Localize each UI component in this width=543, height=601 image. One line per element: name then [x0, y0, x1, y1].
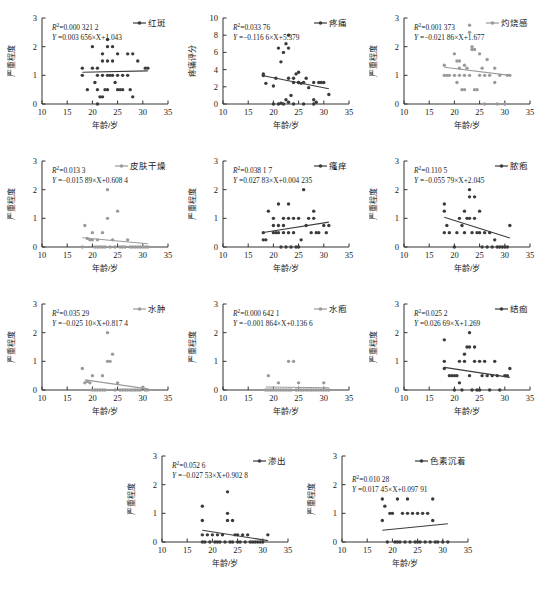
svg-text:2: 2 — [33, 328, 37, 338]
equation-annotation: R2=0.001 373Y =−0.021 86×X+1.677 — [413, 22, 485, 42]
legend: 色素沉着 — [415, 456, 466, 466]
svg-text:15: 15 — [425, 250, 434, 260]
svg-text:20: 20 — [269, 393, 278, 403]
svg-text:25: 25 — [294, 393, 303, 403]
x-axis-title: 年龄/岁 — [92, 120, 118, 130]
equation-label: Y =−0.021 86×X+1.677 — [414, 33, 485, 42]
y-axis-ticks: 0123 — [214, 299, 227, 395]
legend-label: 色素沉着 — [430, 456, 466, 466]
svg-text:35: 35 — [464, 545, 473, 555]
svg-text:0: 0 — [153, 537, 157, 547]
svg-text:0: 0 — [214, 99, 218, 109]
scatter-panel-p4: 1015202530350123年龄/岁严重程度皮肤干燥R2=0.013 3Y … — [0, 143, 181, 286]
legend: 渗出 — [253, 456, 286, 466]
svg-text:0: 0 — [33, 385, 37, 395]
svg-text:3: 3 — [153, 451, 157, 461]
data-points — [81, 188, 150, 249]
svg-text:3: 3 — [395, 299, 399, 309]
equation-label: Y =−0.055 79×X+2.045 — [414, 176, 485, 185]
y-axis-title: 疼痛评分 — [187, 45, 197, 77]
legend: 水疱 — [314, 304, 347, 314]
svg-text:20: 20 — [88, 393, 97, 403]
legend-label: 水疱 — [329, 304, 347, 314]
r-squared-label: R2=0.038 1 7 — [232, 165, 272, 175]
svg-text:15: 15 — [244, 393, 253, 403]
svg-text:2: 2 — [153, 480, 157, 490]
svg-text:35: 35 — [345, 250, 354, 260]
axes — [342, 456, 468, 542]
equation-label: Y =−0.027 53×X+0.902 8 — [172, 471, 248, 480]
y-axis-ticks: 0123 — [153, 451, 166, 547]
svg-text:0: 0 — [214, 385, 218, 395]
x-axis-title: 年龄/岁 — [454, 120, 480, 130]
svg-text:15: 15 — [425, 393, 434, 403]
scatter-panel-p10: 1015202530350123年龄/岁严重程度渗出R2=0.052 6Y =−… — [120, 438, 301, 581]
equation-annotation: R2=0.035 29Y =−0.025 10×X+0.817 4 — [51, 308, 128, 328]
regression-line — [263, 222, 329, 232]
svg-text:6: 6 — [214, 47, 218, 57]
data-points — [262, 188, 331, 249]
x-axis-ticks: 101520253035 — [38, 101, 173, 118]
equation-annotation: R2=0.052 6Y =−0.027 53×X+0.902 8 — [171, 460, 248, 480]
svg-text:35: 35 — [164, 393, 173, 403]
svg-text:2: 2 — [214, 185, 218, 195]
svg-text:20: 20 — [88, 107, 97, 117]
scatter-panel-p11: 1015202530350123年龄/岁严重程度色素沉着R2=0.010 28Y… — [300, 438, 481, 581]
data-points — [381, 497, 450, 543]
x-axis-ticks: 101520253035 — [400, 244, 535, 261]
legend-label: 瘙痒 — [329, 161, 347, 171]
svg-text:10: 10 — [38, 250, 47, 260]
regression-line — [382, 524, 448, 531]
svg-text:15: 15 — [244, 250, 253, 260]
svg-text:10: 10 — [400, 393, 409, 403]
svg-text:2: 2 — [333, 480, 337, 490]
svg-text:10: 10 — [400, 107, 409, 117]
svg-text:1: 1 — [395, 356, 399, 366]
svg-text:25: 25 — [113, 107, 122, 117]
svg-text:10: 10 — [219, 250, 228, 260]
data-points — [81, 331, 150, 392]
legend: 脓疱 — [495, 161, 528, 171]
x-axis-title: 年龄/岁 — [392, 558, 418, 568]
svg-text:3: 3 — [33, 299, 37, 309]
x-axis-ticks: 101520253035 — [400, 101, 535, 118]
y-axis-title: 严重程度 — [368, 45, 378, 77]
equation-annotation: R2=0.033 76Y =−0.116 6×X+5.379 — [232, 22, 300, 42]
figure-root: 1015202530350123年龄/岁严重程度红斑R2=0.000 321 2… — [0, 0, 543, 601]
svg-text:30: 30 — [501, 107, 510, 117]
y-axis-title: 严重程度 — [187, 331, 197, 363]
svg-text:25: 25 — [113, 393, 122, 403]
equation-annotation: R2=0.038 1 7Y =0.027 83×X+0.004 235 — [232, 165, 313, 185]
svg-text:10: 10 — [158, 545, 167, 555]
legend: 疼痛 — [314, 18, 347, 28]
svg-text:20: 20 — [450, 393, 459, 403]
svg-text:35: 35 — [345, 393, 354, 403]
y-axis-ticks: 0123 — [333, 451, 346, 547]
legend-label: 灼烧感 — [501, 18, 528, 28]
y-axis-title: 严重程度 — [368, 331, 378, 363]
legend: 皮肤干燥 — [115, 161, 166, 171]
svg-text:1: 1 — [214, 356, 218, 366]
svg-text:0: 0 — [395, 242, 399, 252]
svg-text:0: 0 — [395, 99, 399, 109]
y-axis-title: 严重程度 — [6, 188, 16, 220]
svg-text:10: 10 — [219, 107, 228, 117]
svg-text:3: 3 — [333, 451, 337, 461]
svg-text:15: 15 — [63, 107, 72, 117]
svg-text:20: 20 — [450, 107, 459, 117]
y-axis-ticks: 0246810 — [210, 13, 227, 109]
svg-text:15: 15 — [183, 545, 192, 555]
svg-text:1: 1 — [33, 70, 37, 80]
svg-text:15: 15 — [244, 107, 253, 117]
svg-text:1: 1 — [214, 213, 218, 223]
svg-text:2: 2 — [214, 82, 218, 92]
data-points — [443, 188, 512, 249]
scatter-panel-p2: 1015202530350246810年龄/岁疼痛评分疼痛R2=0.033 76… — [181, 0, 362, 143]
svg-text:1: 1 — [33, 213, 37, 223]
svg-text:0: 0 — [33, 242, 37, 252]
equation-annotation: R2=0.013 3Y =−0.015 89×X+0.608 4 — [51, 165, 128, 185]
x-axis-ticks: 101520253035 — [219, 101, 354, 118]
svg-text:1: 1 — [395, 213, 399, 223]
y-axis-title: 严重程度 — [6, 45, 16, 77]
x-axis-title: 年龄/岁 — [273, 120, 299, 130]
